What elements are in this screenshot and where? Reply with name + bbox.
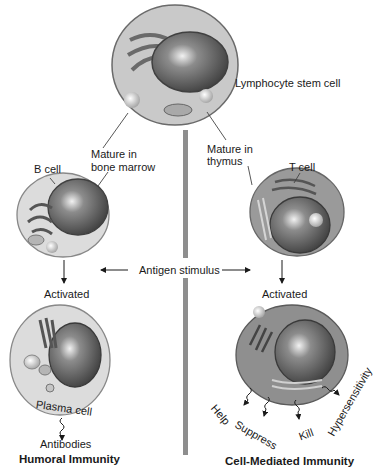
- left-activated-label: Activated: [44, 288, 89, 301]
- cell-mediated-immunity-heading: Cell-Mediated Immunity: [225, 455, 354, 468]
- right-activated-label: Activated: [262, 288, 307, 301]
- plasma-cell-icon: [10, 305, 110, 415]
- antigen-stimulus-label: Antigen stimulus: [137, 264, 222, 277]
- activated-t-cell-icon: [236, 305, 348, 405]
- antibodies-label: Antibodies: [40, 438, 91, 451]
- bone-marrow-label-line2: bone marrow: [91, 161, 155, 174]
- thymus-label-line2: thymus: [207, 155, 242, 168]
- t-cell-icon: [250, 168, 344, 256]
- stem-cell-icon: [112, 5, 238, 125]
- b-cell-label: B cell: [34, 163, 61, 176]
- bone-marrow-label-line1: Mature in: [91, 148, 137, 161]
- humoral-immunity-heading: Humoral Immunity: [19, 453, 120, 466]
- stem-cell-label: Lymphocyte stem cell: [235, 77, 340, 90]
- b-cell-icon: [17, 173, 109, 257]
- t-cell-label: T cell: [289, 161, 315, 174]
